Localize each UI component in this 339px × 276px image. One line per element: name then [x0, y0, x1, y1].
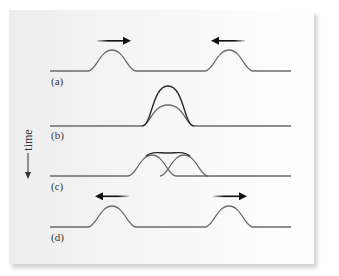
pulse-line	[160, 155, 208, 176]
pulse-line	[50, 105, 291, 126]
time-axis: time	[21, 129, 35, 179]
wave-superposition-diagram: (a) (b) (c) (d) time	[0, 0, 339, 276]
arrow-down-icon	[25, 172, 31, 179]
row-d: (d)	[50, 192, 291, 244]
row-label-d: (d)	[51, 231, 64, 244]
row-label-a: (a)	[51, 75, 64, 88]
time-axis-label: time	[21, 129, 35, 150]
row-label-c: (c)	[51, 180, 64, 193]
arrow-right-icon	[97, 37, 131, 45]
pulse-line	[50, 50, 291, 71]
pulse-line	[50, 206, 291, 227]
row-label-b: (b)	[51, 129, 64, 142]
row-b: (b)	[50, 86, 291, 142]
row-c: (c)	[50, 153, 291, 193]
arrow-left-icon	[211, 37, 245, 45]
row-a: (a)	[50, 37, 291, 88]
arrow-right-icon	[213, 192, 247, 200]
arrow-left-icon	[95, 192, 129, 200]
